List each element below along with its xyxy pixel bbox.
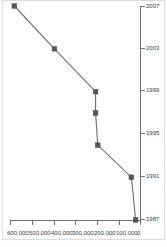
rotated-chart-wrapper: 1987 1991 1995 1999 2003 2007 0 100,000 … bbox=[0, 0, 167, 247]
data-point-1997 bbox=[93, 111, 98, 116]
data-point-1999 bbox=[93, 89, 98, 94]
chart-page: 1987 1991 1995 1999 2003 2007 0 100,000 … bbox=[0, 0, 167, 247]
line-chart: 1987 1991 1995 1999 2003 2007 0 100,000 … bbox=[0, 0, 167, 247]
data-point-2003 bbox=[52, 47, 57, 52]
data-point-1987 bbox=[133, 218, 138, 223]
series-line-path bbox=[14, 6, 135, 220]
data-point-1991 bbox=[129, 175, 134, 180]
series-markers bbox=[12, 4, 138, 223]
data-point-1994 bbox=[95, 143, 100, 148]
data-point-2007 bbox=[12, 4, 17, 9]
data-series-line bbox=[0, 0, 167, 247]
